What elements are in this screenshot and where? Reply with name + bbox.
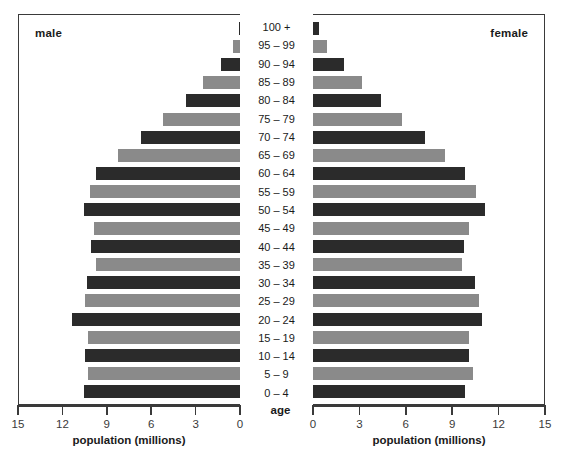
bar-row <box>19 55 240 73</box>
age-label: 85 – 89 <box>240 73 313 91</box>
bar-row <box>19 37 240 55</box>
male-panel: male <box>18 14 240 405</box>
bar-row <box>19 146 240 164</box>
axis-tick-label: 3 <box>192 418 198 430</box>
bar-row <box>19 328 240 346</box>
age-label: 0 – 4 <box>240 384 313 402</box>
bar-row <box>313 310 544 328</box>
axis-tick-label: 12 <box>56 418 69 430</box>
bar-male-5–9 <box>88 367 240 380</box>
bar-row <box>19 237 240 255</box>
bar-row <box>19 255 240 273</box>
bar-row <box>19 310 240 328</box>
bar-row <box>313 128 544 146</box>
bar-male-25–29 <box>85 294 240 307</box>
age-label: 90 – 94 <box>240 55 313 73</box>
male-x-tick-labels: 15129630 <box>18 405 240 435</box>
bar-row <box>313 255 544 273</box>
bar-female-20–24 <box>313 313 482 326</box>
axis-tick-label: 0 <box>237 418 243 430</box>
age-label: 30 – 34 <box>240 274 313 292</box>
age-label: 65 – 69 <box>240 146 313 164</box>
bar-male-85–89 <box>203 76 240 89</box>
bar-row <box>313 92 544 110</box>
bar-female-40–44 <box>313 240 464 253</box>
bar-row <box>313 37 544 55</box>
age-label: 100 + <box>240 18 313 36</box>
age-label: 50 – 54 <box>240 201 313 219</box>
bar-row <box>313 201 544 219</box>
bar-male-65–69 <box>118 149 240 162</box>
bar-row <box>313 165 544 183</box>
bar-row <box>19 219 240 237</box>
female-x-axis-title: population (millions) <box>313 434 545 446</box>
age-label: 15 – 19 <box>240 329 313 347</box>
bar-row <box>19 19 240 37</box>
bar-row <box>313 74 544 92</box>
bar-female-35–39 <box>313 258 462 271</box>
male-x-axis-title: population (millions) <box>18 434 240 446</box>
bar-female-65–69 <box>313 149 445 162</box>
bar-male-55–59 <box>90 185 240 198</box>
bar-row <box>313 328 544 346</box>
bar-female-50–54 <box>313 203 485 216</box>
bar-male-0–4 <box>84 385 240 398</box>
axis-tick-label: 9 <box>449 418 455 430</box>
bar-female-0–4 <box>313 385 465 398</box>
bar-row <box>313 365 544 383</box>
bar-male-15–19 <box>88 331 240 344</box>
bar-male-90–94 <box>221 58 240 71</box>
age-label: 80 – 84 <box>240 91 313 109</box>
age-label: 25 – 29 <box>240 292 313 310</box>
axis-tick-label: 3 <box>356 418 362 430</box>
age-label-list: 100 +95 – 9990 – 9485 – 8980 – 8475 – 79… <box>240 18 313 402</box>
bar-female-25–29 <box>313 294 479 307</box>
bar-female-95–99 <box>313 40 327 53</box>
bar-female-60–64 <box>313 167 465 180</box>
axis-tick-label: 6 <box>403 418 409 430</box>
bar-female-90–94 <box>313 58 344 71</box>
bar-row <box>313 383 544 401</box>
bar-female-85–89 <box>313 76 362 89</box>
bar-female-10–14 <box>313 349 469 362</box>
age-label: 70 – 74 <box>240 128 313 146</box>
bar-row <box>19 183 240 201</box>
age-label: 55 – 59 <box>240 183 313 201</box>
bar-row <box>313 19 544 37</box>
age-label: 40 – 44 <box>240 237 313 255</box>
bar-female-5–9 <box>313 367 473 380</box>
bar-row <box>19 365 240 383</box>
bar-male-30–34 <box>87 276 240 289</box>
axis-tick-label: 15 <box>12 418 25 430</box>
bar-female-100+ <box>313 22 319 35</box>
bar-male-80–84 <box>186 94 241 107</box>
age-label: 60 – 64 <box>240 164 313 182</box>
bar-male-95–99 <box>233 40 240 53</box>
bar-row <box>19 92 240 110</box>
bar-female-30–34 <box>313 276 475 289</box>
female-bars-group <box>313 19 544 401</box>
bar-male-20–24 <box>72 313 240 326</box>
bar-row <box>19 292 240 310</box>
bar-female-70–74 <box>313 131 425 144</box>
bar-female-80–84 <box>313 94 381 107</box>
axis-tick-label: 15 <box>539 418 552 430</box>
age-label: 75 – 79 <box>240 109 313 127</box>
bar-female-55–59 <box>313 185 476 198</box>
age-label: 35 – 39 <box>240 256 313 274</box>
bar-row <box>19 201 240 219</box>
bar-male-45–49 <box>94 222 240 235</box>
axis-tick-label: 0 <box>310 418 316 430</box>
bar-row <box>19 110 240 128</box>
bar-female-15–19 <box>313 331 469 344</box>
axis-tick-label: 9 <box>104 418 110 430</box>
female-x-tick-labels: 03691215 <box>313 405 545 435</box>
bar-row <box>19 274 240 292</box>
bar-row <box>19 346 240 364</box>
bar-row <box>19 128 240 146</box>
bar-row <box>313 346 544 364</box>
bar-male-60–64 <box>96 167 240 180</box>
age-label: 10 – 14 <box>240 347 313 365</box>
age-label: 45 – 49 <box>240 219 313 237</box>
bar-row <box>313 110 544 128</box>
